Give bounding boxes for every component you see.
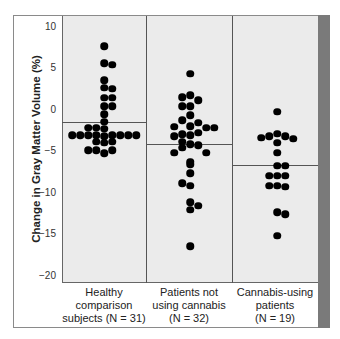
x-category-label-line: Patients not [140, 286, 238, 299]
data-point [108, 146, 116, 154]
data-point [170, 149, 178, 157]
data-point [281, 183, 289, 191]
data-point [265, 172, 273, 180]
data-point [100, 43, 108, 51]
data-point [100, 102, 108, 110]
data-point [108, 94, 116, 102]
x-category-label-line: Healthy [56, 286, 152, 299]
data-point [116, 131, 124, 139]
group-divider [146, 16, 147, 283]
data-point [273, 130, 281, 138]
x-category-label: Patients notusing cannabis(N = 32) [140, 286, 238, 325]
data-point [170, 123, 178, 131]
data-point [186, 161, 194, 169]
data-point [281, 132, 289, 140]
data-point [202, 149, 210, 157]
data-point [108, 61, 116, 69]
data-point [186, 70, 194, 78]
data-point [100, 59, 108, 67]
data-point [265, 132, 273, 140]
accent-bar [318, 15, 330, 328]
data-point [132, 131, 140, 139]
data-point [84, 146, 92, 154]
y-tick-label: −15 [26, 228, 56, 240]
data-point [273, 182, 281, 190]
data-point [92, 138, 100, 146]
data-point [100, 111, 108, 119]
x-category-label-line: comparison [56, 299, 152, 312]
data-point [84, 131, 92, 139]
x-category-label: Cannabis-usingpatients(N = 19) [226, 286, 324, 325]
x-category-label-line: using cannabis [140, 299, 238, 312]
data-point [100, 94, 108, 102]
data-point [194, 97, 202, 105]
data-point [273, 162, 281, 170]
data-point [273, 172, 281, 180]
data-point [100, 139, 108, 147]
data-point [108, 102, 116, 110]
y-tick-label: −20 [26, 270, 56, 282]
data-point [273, 108, 281, 116]
data-point [281, 210, 289, 218]
data-point [186, 92, 194, 100]
data-point [178, 131, 186, 139]
group-divider [232, 16, 233, 283]
data-point [210, 124, 218, 132]
data-point [194, 202, 202, 210]
data-point [273, 149, 281, 157]
data-point [178, 144, 186, 152]
data-point [178, 102, 186, 110]
data-point [186, 206, 194, 214]
y-tick-label: −10 [26, 187, 56, 199]
y-tick-label: 10 [26, 21, 56, 33]
data-point [76, 131, 84, 139]
data-point [194, 119, 202, 127]
data-point [100, 77, 108, 85]
data-point [108, 85, 116, 93]
data-point [92, 146, 100, 154]
data-point [124, 131, 132, 139]
data-point [273, 139, 281, 147]
data-point [178, 180, 186, 188]
data-point [186, 102, 194, 110]
data-point [68, 131, 76, 139]
x-category-label-line: subjects (N = 31) [56, 312, 152, 325]
data-point [170, 132, 178, 140]
data-point [186, 122, 194, 130]
x-category-label: Healthycomparisonsubjects (N = 31) [56, 286, 152, 325]
x-category-label-line: Cannabis-using [226, 286, 324, 299]
data-point [186, 182, 194, 190]
data-point [194, 141, 202, 149]
data-point [186, 170, 194, 178]
y-tick-label: 5 [26, 62, 56, 74]
x-category-label-line: patients [226, 299, 324, 312]
data-point [281, 162, 289, 170]
data-point [186, 199, 194, 207]
data-point [92, 124, 100, 132]
data-point [186, 112, 194, 120]
data-point [194, 129, 202, 137]
data-point [289, 135, 297, 143]
data-point [273, 209, 281, 217]
data-point [100, 150, 108, 158]
data-point [178, 117, 186, 125]
data-point [257, 134, 265, 142]
data-point [186, 243, 194, 251]
data-point [202, 124, 210, 132]
data-point [84, 124, 92, 132]
data-point [273, 232, 281, 240]
data-point [100, 84, 108, 92]
data-point [265, 182, 273, 190]
y-tick-label: −5 [26, 145, 56, 157]
data-point [108, 138, 116, 146]
data-point [178, 93, 186, 101]
data-point [281, 172, 289, 180]
data-point [100, 125, 108, 133]
x-category-label-line: (N = 32) [140, 312, 238, 325]
x-category-label-line: (N = 19) [226, 312, 324, 325]
data-point [186, 131, 194, 139]
data-point [186, 141, 194, 149]
y-tick-label: 0 [26, 104, 56, 116]
